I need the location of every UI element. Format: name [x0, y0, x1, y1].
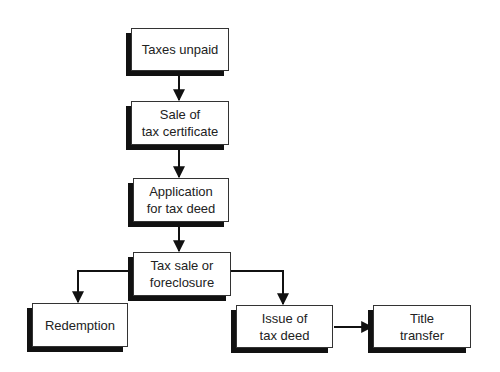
node-application-for-tax-deed: Application for tax deed [133, 178, 229, 222]
node-sale-of-tax-certificate: Sale of tax certificate [131, 101, 229, 145]
node-issue-of-tax-deed: Issue of tax deed [236, 305, 333, 348]
node-tax-sale-or-foreclosure: Tax sale or foreclosure [133, 252, 231, 296]
edge-taxsale-to-issue [231, 271, 283, 304]
node-taxes-unpaid: Taxes unpaid [131, 28, 229, 71]
node-redemption: Redemption [32, 303, 128, 347]
edge-taxsale-to-redemption [78, 271, 130, 302]
node-title-transfer: Title transfer [373, 305, 471, 348]
